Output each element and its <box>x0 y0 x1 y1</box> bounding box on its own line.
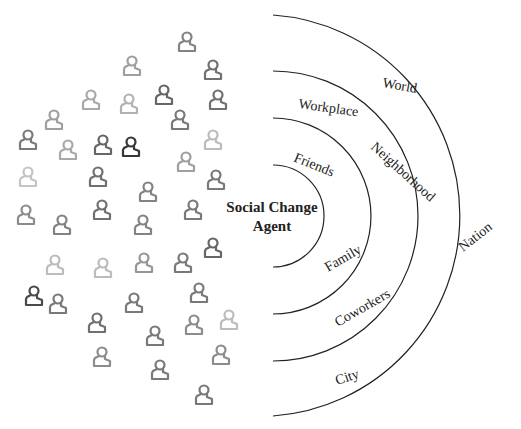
person-icon <box>205 61 221 80</box>
person-icon <box>205 131 221 150</box>
person-icon <box>136 254 152 273</box>
label-nation: Nation <box>456 219 495 254</box>
person-icon <box>90 168 106 187</box>
person-icon <box>94 201 110 220</box>
diagram-canvas: Social Change Agent Friends Family Workp… <box>0 0 521 429</box>
person-icon <box>50 295 66 314</box>
person-icon <box>26 287 42 306</box>
label-coworkers: Coworkers <box>332 286 393 330</box>
center-label-line1: Social Change <box>226 199 318 215</box>
people-crowd <box>18 33 237 405</box>
person-icon <box>60 141 76 160</box>
person-icon <box>210 91 226 110</box>
arc-second <box>273 118 371 314</box>
label-friends: Friends <box>292 150 337 180</box>
concentric-arcs <box>273 15 460 416</box>
person-icon <box>95 136 111 155</box>
person-icon <box>54 216 70 235</box>
person-icon <box>179 33 195 52</box>
person-icon <box>20 131 36 150</box>
person-icon <box>178 153 194 172</box>
person-icon <box>147 327 163 346</box>
person-icon <box>94 348 110 367</box>
person-icon <box>208 171 224 190</box>
person-icon <box>221 311 237 330</box>
person-icon <box>83 91 99 110</box>
arc-outer <box>273 15 460 416</box>
label-workplace: Workplace <box>298 96 360 119</box>
person-icon <box>124 57 140 76</box>
person-icon <box>89 314 105 333</box>
person-icon <box>175 254 191 273</box>
person-icon <box>47 256 63 275</box>
label-world: World <box>381 75 418 96</box>
person-icon <box>140 183 156 202</box>
person-icon <box>213 346 229 365</box>
label-neighborhood: Neighborhood <box>368 139 438 204</box>
social-change-diagram: Social Change Agent Friends Family Workp… <box>0 0 521 429</box>
person-icon <box>20 168 36 187</box>
person-icon <box>126 294 142 313</box>
label-family: Family <box>322 242 364 275</box>
label-city: City <box>333 366 361 388</box>
person-icon <box>172 111 188 130</box>
center-label-line2: Agent <box>253 218 291 234</box>
person-icon <box>18 206 34 225</box>
person-icon <box>196 386 212 405</box>
person-icon <box>46 111 62 130</box>
person-icon <box>205 239 221 258</box>
person-icon <box>123 138 139 157</box>
person-icon <box>186 316 202 335</box>
person-icon <box>152 361 168 380</box>
person-icon <box>121 95 137 114</box>
person-icon <box>135 216 151 235</box>
person-icon <box>156 86 172 105</box>
arc-inner <box>273 165 324 267</box>
person-icon <box>185 201 201 220</box>
person-icon <box>95 259 111 278</box>
person-icon <box>191 284 207 303</box>
